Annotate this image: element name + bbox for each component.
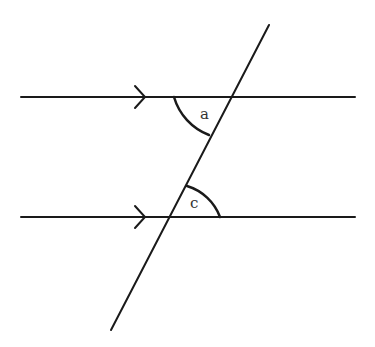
diagram-canvas: a c: [0, 0, 375, 347]
angle-c-label: c: [190, 194, 198, 212]
angle-a-label: a: [200, 105, 209, 123]
parallel-lines-diagram: a c: [0, 0, 375, 347]
transversal-line: [111, 25, 269, 330]
